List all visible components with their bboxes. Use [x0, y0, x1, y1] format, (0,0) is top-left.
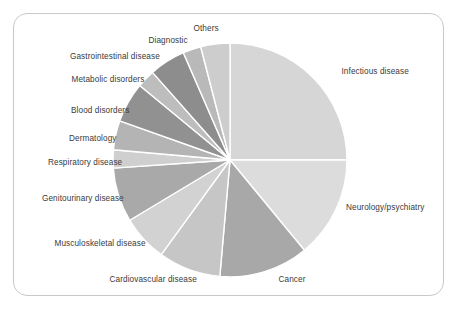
- pie-slice: [230, 43, 347, 160]
- pie-slice-label: Respiratory disease: [48, 159, 122, 167]
- pie-slice-label: Blood disorders: [71, 107, 129, 115]
- pie-chart: OthersDiagnosticGastrointestinal disease…: [0, 0, 461, 316]
- pie-slice-label: Cardiovascular disease: [110, 276, 197, 284]
- pie-slice-label: Neurology/psychiatry: [346, 204, 424, 212]
- pie-slice-label: Others: [194, 25, 219, 33]
- pie-slice-label: Musculoskeletal disease: [55, 240, 146, 248]
- pie-slice-label: Dermatology: [69, 135, 117, 143]
- figure-container: OthersDiagnosticGastrointestinal disease…: [0, 0, 461, 316]
- pie-slice-label: Gastrointestinal disease: [70, 53, 160, 61]
- pie-slice-label: Cancer: [279, 276, 306, 284]
- pie-slice-label: Metabolic disorders: [72, 76, 145, 84]
- pie-slice-label: Infectious disease: [342, 68, 409, 76]
- pie-slice-label: Genitourinary disease: [42, 195, 124, 203]
- pie-slice-group: [113, 43, 347, 277]
- pie-slice-label: Diagnostic: [149, 37, 188, 45]
